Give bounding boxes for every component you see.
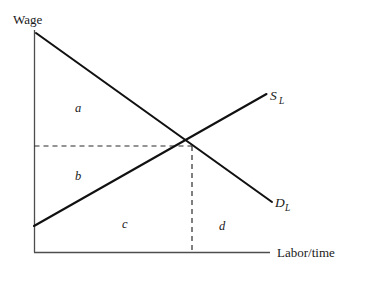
supply-curve-label-main: S: [270, 88, 277, 103]
region-label-d: d: [219, 219, 226, 233]
labor-market-figure: Wage Labor/time S L D L a b c d: [0, 0, 367, 285]
demand-curve-label-subscript: L: [284, 203, 290, 213]
demand-curve-label: D L: [274, 195, 290, 213]
supply-curve-label-subscript: L: [278, 96, 284, 106]
region-label-b: b: [75, 169, 81, 183]
x-axis-label: Labor/time: [277, 245, 335, 260]
demand-curve-label-main: D: [274, 195, 285, 210]
demand-curve: [36, 33, 272, 202]
y-axis-label: Wage: [13, 12, 42, 27]
diagram-canvas: Wage Labor/time S L D L a b c d: [0, 0, 367, 285]
region-label-a: a: [75, 101, 81, 115]
region-label-c: c: [122, 217, 128, 231]
supply-curve-label: S L: [270, 88, 284, 106]
